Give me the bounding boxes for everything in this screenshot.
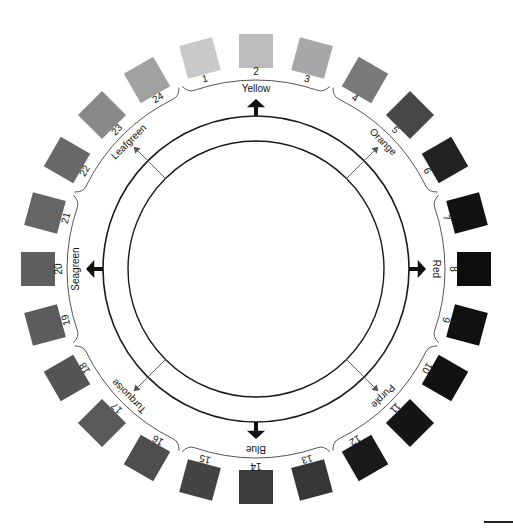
- group-label-seagreen: Seagreen: [70, 234, 82, 304]
- thin-arrow-line: [347, 360, 377, 390]
- arrow-head-icon: [247, 99, 265, 107]
- swatch-14: [239, 470, 273, 504]
- arrow-head-icon: [418, 260, 426, 278]
- group-label-yellow: Yellow: [221, 83, 291, 95]
- swatch-number: 8: [447, 259, 459, 279]
- group-label-red: Red: [430, 234, 442, 304]
- swatch-number: 2: [246, 66, 266, 78]
- swatch-2: [239, 34, 273, 68]
- swatch-8: [457, 252, 491, 286]
- arrow-head-icon: [247, 431, 265, 439]
- swatch-20: [21, 252, 55, 286]
- corner-rule: [484, 521, 513, 523]
- thin-arrow-line: [135, 148, 165, 178]
- swatch-number: 14: [246, 460, 266, 472]
- thin-arrow-line: [347, 148, 377, 178]
- swatch-number: 20: [53, 259, 65, 279]
- thin-arrow-line: [135, 360, 165, 390]
- arrow-head-icon: [86, 260, 94, 278]
- color-wheel-diagram: 123456789101112131415161718192021222324Y…: [0, 0, 513, 531]
- inner-ring: [128, 141, 384, 397]
- group-label-blue: Blue: [221, 443, 291, 455]
